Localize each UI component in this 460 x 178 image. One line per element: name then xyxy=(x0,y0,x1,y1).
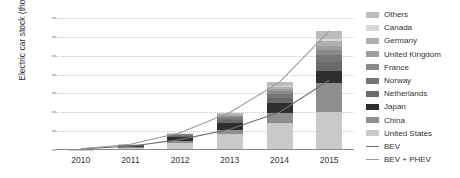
legend-label: Japan xyxy=(384,102,406,111)
x-tick-label: 2015 xyxy=(304,155,354,165)
x-tick-label: 2013 xyxy=(205,155,255,165)
line-series-group xyxy=(56,18,354,150)
legend-label: France xyxy=(384,63,409,72)
legend-label: BEV + PHEV xyxy=(384,155,431,164)
legend-label: United Kingdom xyxy=(384,50,441,59)
legend-label: United States xyxy=(384,129,432,138)
legend-item-bev[interactable]: BEV xyxy=(366,140,460,153)
legend-label: Norway xyxy=(384,76,411,85)
legend-label: Netherlands xyxy=(384,89,427,98)
legend-item-norway[interactable]: Norway xyxy=(366,74,460,87)
line-bev xyxy=(81,80,329,149)
legend-color-swatch xyxy=(366,12,379,18)
legend-line-swatch xyxy=(366,159,379,160)
legend-color-swatch xyxy=(366,104,379,110)
legend-label: Germany xyxy=(384,36,417,45)
x-tick-label: 2011 xyxy=(106,155,156,165)
legend: OthersCanadaGermanyUnited KingdomFranceN… xyxy=(366,8,460,166)
x-tick-label: 2010 xyxy=(56,155,106,165)
legend-label: BEV xyxy=(384,142,400,151)
legend-color-swatch xyxy=(366,25,379,31)
electric-car-stock-chart: Electric car stock (thousands) 020040060… xyxy=(0,0,460,178)
plot-area: 0200400600800100012001400 20102011201220… xyxy=(56,18,354,150)
legend-item-canada[interactable]: Canada xyxy=(366,21,460,34)
legend-label: Others xyxy=(384,10,408,19)
legend-color-swatch xyxy=(366,130,379,136)
line-bev-phev xyxy=(81,31,329,148)
x-tick-label: 2014 xyxy=(255,155,305,165)
legend-color-swatch xyxy=(366,38,379,44)
legend-item-japan[interactable]: Japan xyxy=(366,100,460,113)
legend-color-swatch xyxy=(366,78,379,84)
legend-label: Canada xyxy=(384,23,412,32)
legend-color-swatch xyxy=(366,51,379,57)
legend-item-united-states[interactable]: United States xyxy=(366,127,460,140)
legend-item-bev-phev[interactable]: BEV + PHEV xyxy=(366,153,460,166)
legend-item-united-kingdom[interactable]: United Kingdom xyxy=(366,48,460,61)
legend-item-france[interactable]: France xyxy=(366,61,460,74)
legend-label: China xyxy=(384,116,405,125)
legend-line-swatch xyxy=(366,146,379,147)
legend-item-netherlands[interactable]: Netherlands xyxy=(366,87,460,100)
legend-color-swatch xyxy=(366,117,379,123)
legend-color-swatch xyxy=(366,91,379,97)
y-axis-title: Electric car stock (thousands) xyxy=(15,0,29,95)
x-tick-label: 2012 xyxy=(155,155,205,165)
legend-item-others[interactable]: Others xyxy=(366,8,460,21)
legend-color-swatch xyxy=(366,64,379,70)
legend-item-china[interactable]: China xyxy=(366,114,460,127)
legend-item-germany[interactable]: Germany xyxy=(366,34,460,47)
x-axis-line xyxy=(56,149,354,150)
